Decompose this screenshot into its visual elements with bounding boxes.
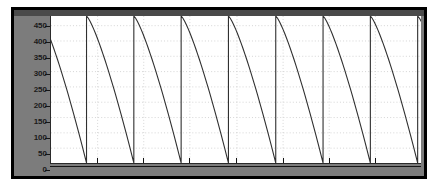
x-axis-rail <box>50 166 421 167</box>
y-axis-tick: 0 <box>14 164 50 176</box>
waveform-plot <box>51 16 421 163</box>
y-axis-tick: 100 <box>14 132 50 144</box>
x-axis-tick-mark <box>143 158 144 163</box>
x-axis-tick-mark <box>283 158 284 163</box>
scope-screenshot-root: 050100150200250300350400450 <box>0 0 434 187</box>
y-axis-tick: 250 <box>14 84 50 96</box>
x-axis-tick-mark <box>375 158 376 163</box>
y-axis-tick: 400 <box>14 36 50 48</box>
signal-trace <box>51 16 421 163</box>
plot-area[interactable] <box>50 16 421 164</box>
x-axis-tick-mark <box>189 158 190 163</box>
scope-panel: 050100150200250300350400450 <box>14 10 424 176</box>
x-axis-tick-mark <box>97 158 98 163</box>
y-axis-tick: 150 <box>14 116 50 128</box>
y-axis-tick: 300 <box>14 68 50 80</box>
y-axis-tick: 200 <box>14 100 50 112</box>
y-axis: 050100150200250300350400450 <box>14 16 50 176</box>
x-axis-tick-mark <box>236 158 237 163</box>
x-axis-tick-mark <box>329 158 330 163</box>
scope-window-frame: 050100150200250300350400450 <box>11 7 427 179</box>
y-axis-tick-mark <box>45 170 50 171</box>
y-axis-tick: 450 <box>14 20 50 32</box>
y-axis-tick: 350 <box>14 52 50 64</box>
y-axis-tick: 50 <box>14 148 50 160</box>
